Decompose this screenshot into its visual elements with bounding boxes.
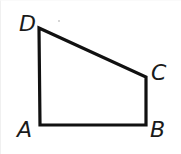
- scan-speck-artifact: [58, 20, 60, 22]
- vertex-label-a: A: [17, 119, 32, 141]
- vertex-label-d: D: [19, 13, 36, 35]
- geometry-figure-canvas: D C A B: [0, 0, 181, 154]
- vertex-label-b: B: [150, 119, 165, 141]
- quadrilateral-abcd-outline: [39, 28, 146, 125]
- vertex-label-c: C: [151, 62, 166, 84]
